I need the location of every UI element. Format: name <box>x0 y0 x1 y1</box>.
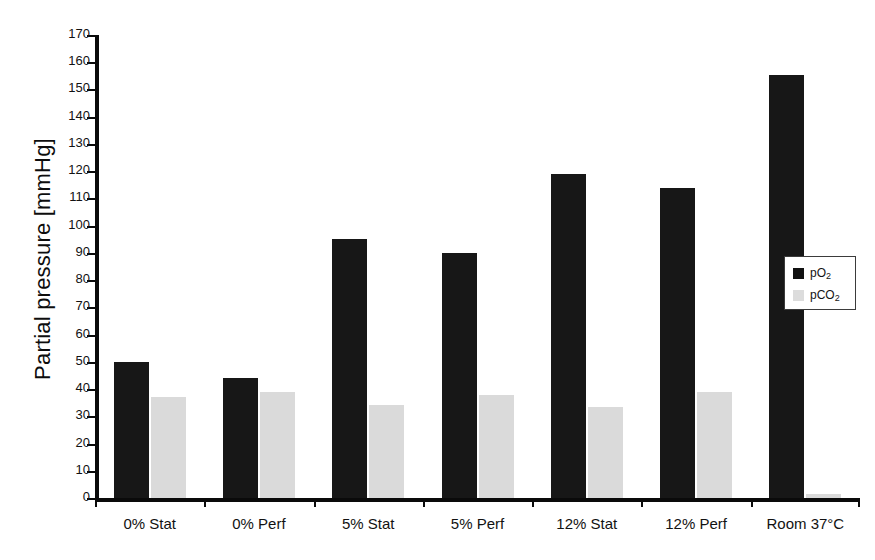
x-tick-mark <box>641 498 643 507</box>
chart-legend: pO2 pCO2 <box>784 256 856 310</box>
bar-po2-0 <box>114 362 149 498</box>
legend-label-po2: pO2 <box>810 266 831 280</box>
y-tick-label: 20 <box>56 436 90 450</box>
x-axis-label-6: Room 37°C <box>751 515 860 532</box>
y-tick-label: 60 <box>56 327 90 341</box>
x-tick-mark <box>314 498 316 507</box>
y-tick-label: 120 <box>56 163 90 177</box>
y-tick-label: 90 <box>56 245 90 259</box>
x-axis-label-2: 5% Stat <box>314 515 423 532</box>
bar-pco2-3 <box>479 395 514 498</box>
y-tick-label: 100 <box>56 218 90 232</box>
y-tick-label: 10 <box>56 463 90 477</box>
y-tick-label: 110 <box>56 190 90 204</box>
legend-item-pco2: pCO2 <box>793 285 855 305</box>
y-tick-label: 130 <box>56 136 90 150</box>
y-axis-title: Partial pressure [mmHg] <box>30 44 56 474</box>
x-axis-label-4: 12% Stat <box>532 515 641 532</box>
bar-pco2-4 <box>588 407 623 498</box>
bar-po2-3 <box>442 253 477 498</box>
y-tick-label: 70 <box>56 299 90 313</box>
y-tick-label: 30 <box>56 408 90 422</box>
bar-chart: Partial pressure [mmHg] 0102030405060708… <box>0 0 875 560</box>
legend-item-po2: pO2 <box>793 263 855 283</box>
x-tick-mark <box>858 498 860 507</box>
x-axis-label-3: 5% Perf <box>423 515 532 532</box>
y-tick-label: 170 <box>56 27 90 41</box>
y-tick-label: 80 <box>56 272 90 286</box>
x-tick-mark <box>95 498 97 507</box>
x-axis-label-0: 0% Stat <box>95 515 204 532</box>
bar-pco2-1 <box>260 392 295 498</box>
y-axis-line <box>95 35 99 502</box>
x-tick-mark <box>751 498 753 507</box>
x-tick-mark <box>532 498 534 507</box>
y-tick-label: 150 <box>56 81 90 95</box>
bar-po2-5 <box>660 188 695 498</box>
x-axis-label-1: 0% Perf <box>204 515 313 532</box>
bar-pco2-6 <box>806 494 841 498</box>
bar-po2-1 <box>223 378 258 498</box>
y-tick-label: 50 <box>56 354 90 368</box>
legend-label-pco2: pCO2 <box>810 288 840 302</box>
legend-swatch-pco2-icon <box>793 290 804 301</box>
bar-po2-4 <box>551 174 586 498</box>
bar-pco2-5 <box>697 392 732 498</box>
bar-po2-2 <box>332 239 367 498</box>
plot-area: 0102030405060708090100110120130140150160… <box>95 35 860 502</box>
bar-pco2-0 <box>151 397 186 498</box>
legend-swatch-po2-icon <box>793 268 804 279</box>
y-tick-label: 160 <box>56 54 90 68</box>
y-tick-label: 40 <box>56 381 90 395</box>
x-tick-mark <box>423 498 425 507</box>
bar-pco2-2 <box>369 405 404 498</box>
x-axis-line <box>95 498 860 502</box>
x-tick-mark <box>204 498 206 507</box>
x-axis-label-5: 12% Perf <box>641 515 750 532</box>
y-tick-label: 0 <box>56 490 90 504</box>
y-tick-label: 140 <box>56 109 90 123</box>
